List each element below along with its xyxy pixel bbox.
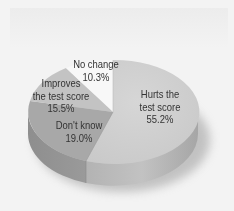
label-dont-know-value: 19.0% xyxy=(48,132,111,145)
label-improves-value: 15.5% xyxy=(30,102,93,115)
label-no-change-name: No change xyxy=(71,58,121,71)
label-hurts-value: 55.2% xyxy=(133,113,187,126)
label-improves: Improves the test score 15.5% xyxy=(30,77,93,115)
label-hurts-name1: Hurts the xyxy=(133,88,187,101)
label-improves-name1: Improves xyxy=(30,77,93,90)
label-improves-name2: the test score xyxy=(30,90,93,103)
label-dont-know-name: Don't know xyxy=(48,119,111,132)
chart-frame: No change 10.3% Improves the test score … xyxy=(0,0,234,211)
label-hurts: Hurts the test score 55.2% xyxy=(133,88,187,126)
label-hurts-name2: test score xyxy=(133,101,187,114)
label-dont-know: Don't know 19.0% xyxy=(48,119,111,144)
